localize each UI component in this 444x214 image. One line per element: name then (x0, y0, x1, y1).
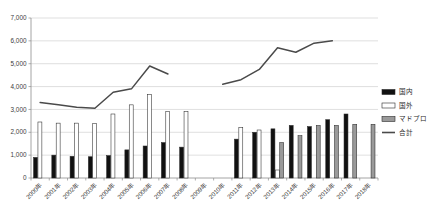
bar (93, 124, 97, 178)
bar (56, 123, 60, 178)
bar (143, 146, 147, 178)
legend-label: 合計 (399, 128, 413, 137)
legend-label: 国内 (399, 87, 413, 96)
chart-container: 01,0002,0003,0004,0005,0006,0007,0002000… (0, 0, 444, 214)
x-axis-tick-label: 2002年 (61, 181, 81, 201)
bar (111, 114, 115, 178)
bar (70, 156, 74, 178)
x-axis-tick-label: 2006年 (134, 181, 154, 201)
x-axis-tick-label: 2000年 (24, 181, 44, 201)
bar (129, 105, 133, 178)
bar (335, 125, 339, 178)
x-axis-group: 2000年2001年2002年2003年2004年2005年2006年2007年… (24, 178, 378, 201)
bar (125, 150, 129, 178)
bar (88, 157, 92, 178)
bar (38, 122, 42, 178)
bar (344, 114, 348, 178)
bar (371, 124, 375, 178)
x-axis-tick-label: 2016年 (317, 181, 337, 201)
x-axis-tick-label: 2014年 (280, 181, 300, 201)
y-axis-tick-label: 2,000 (11, 128, 27, 135)
bar (107, 156, 111, 178)
total-line-group (40, 41, 332, 108)
grid-group: 01,0002,0003,0004,0005,0006,0007,000 (11, 14, 379, 181)
bar (148, 95, 152, 178)
bar (166, 112, 170, 178)
bar (234, 139, 238, 178)
legend-label: マドプロ (399, 115, 427, 122)
x-axis-tick-label: 2011年 (226, 181, 245, 200)
legend-label: 国外 (399, 101, 413, 110)
x-axis-tick-label: 2007年 (152, 181, 172, 201)
bar (239, 128, 243, 178)
combo-bar-line-chart: 01,0002,0003,0004,0005,0006,0007,0002000… (0, 0, 444, 214)
total-line-segment (223, 41, 333, 84)
x-axis-tick-label: 2013年 (262, 181, 282, 201)
legend: 国内国外マドプロ合計 (382, 87, 427, 136)
bar (52, 155, 56, 178)
x-axis-tick-label: 2001年 (43, 181, 63, 201)
y-axis-tick-label: 7,000 (11, 14, 27, 21)
bar (353, 124, 357, 178)
x-axis-tick-label: 2009年 (189, 181, 209, 201)
x-axis-tick-label: 2005年 (116, 181, 136, 201)
bar (74, 123, 78, 178)
x-axis-tick-label: 2008年 (171, 181, 191, 201)
bar (316, 125, 320, 178)
bar (280, 143, 284, 178)
bar (298, 136, 302, 178)
bar (271, 129, 275, 178)
y-axis-tick-label: 0 (23, 174, 27, 181)
bar (257, 130, 261, 178)
x-axis-tick-label: 2012年 (244, 181, 264, 201)
bar (161, 143, 165, 178)
bar (275, 170, 279, 178)
bar (180, 147, 184, 178)
legend-swatch (382, 90, 395, 95)
bar (34, 157, 38, 178)
y-axis-tick-label: 5,000 (11, 60, 27, 67)
bar (326, 120, 330, 178)
x-axis-tick-label: 2010年 (207, 181, 227, 201)
bar (308, 127, 312, 178)
y-axis-tick-label: 6,000 (11, 37, 27, 44)
y-axis-tick-label: 1,000 (11, 151, 27, 158)
x-axis-tick-label: 2015年 (298, 181, 318, 201)
x-axis-tick-label: 2018年 (353, 181, 373, 201)
x-axis-tick-label: 2017年 (335, 181, 355, 201)
x-axis-tick-label: 2004年 (97, 181, 117, 201)
y-axis-tick-label: 4,000 (11, 83, 27, 90)
bar (253, 132, 257, 178)
bar (289, 125, 293, 178)
y-axis-tick-label: 3,000 (11, 106, 27, 113)
legend-swatch (382, 103, 395, 108)
bar (184, 112, 188, 178)
legend-swatch (382, 117, 395, 122)
x-axis-tick-label: 2003年 (79, 181, 99, 201)
